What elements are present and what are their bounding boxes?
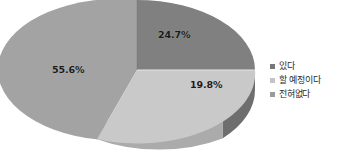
legend-label-planned: 할 예정이다 <box>279 74 321 86</box>
pie-chart: 24.7% 19.8% 55.6% 있다 할 예정이다 전혀없다 <box>0 0 353 159</box>
pie-label-planned: 19.8% <box>190 80 222 90</box>
legend-item-planned[interactable]: 할 예정이다 <box>270 73 350 87</box>
pie-label-none: 55.6% <box>52 65 84 75</box>
pie-top-face <box>0 0 255 143</box>
pie-label-have: 24.7% <box>158 30 190 40</box>
legend-swatch-icon <box>270 78 275 83</box>
legend-label-have: 있다 <box>279 60 295 72</box>
legend-item-have[interactable]: 있다 <box>270 59 350 73</box>
legend-swatch-icon <box>270 92 275 97</box>
legend-item-none[interactable]: 전혀없다 <box>270 87 350 101</box>
pie-slice-have <box>137 0 255 70</box>
chart-legend: 있다 할 예정이다 전혀없다 <box>270 59 350 101</box>
legend-label-none: 전혀없다 <box>279 88 310 100</box>
legend-swatch-icon <box>270 64 275 69</box>
